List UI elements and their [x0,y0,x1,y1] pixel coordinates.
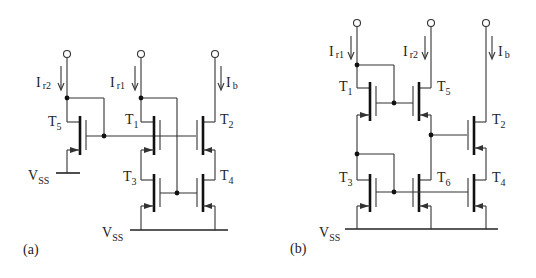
label-t1: T1 [125,112,139,130]
terminal-ir2 [64,51,71,58]
label-t3: T3 [123,169,137,187]
transistor-t4 [197,174,215,230]
label-ib: Ib [226,75,238,91]
transistor-t3 [141,174,160,230]
label-ir2: Ir2 [403,44,418,60]
label-t1: T1 [339,79,353,97]
label-ir2: Ir2 [36,75,51,91]
terminal-ir2 [428,20,435,27]
label-t4: T4 [492,170,506,188]
transistor-t1 [357,82,376,180]
label-vss: VSS [319,225,340,243]
label-vss-left: VSS [28,168,49,186]
label-t5: T5 [48,114,62,132]
transistor-t5 [413,82,431,180]
label-ib: Ib [498,44,510,60]
figure-b: Ir1 Ir2 Ib T1 T5 T2 T3 T6 T4 VSS (b) [290,20,510,258]
label-t2: T2 [220,112,234,130]
label-t3: T3 [339,170,353,188]
terminal-ib [483,20,490,27]
transistor-t6 [413,174,431,229]
label-t4: T4 [220,168,234,186]
label-t6: T6 [437,170,451,188]
figure-label-b: (b) [290,241,307,257]
terminal-ir1 [138,51,145,58]
terminal-ir1 [354,20,361,27]
transistor-t2 [197,116,215,180]
label-ir1: Ir1 [329,44,344,60]
current-arrow-icon [348,36,495,59]
transistor-t4 [468,174,486,229]
transistor-t2 [468,116,486,180]
figure-label-a: (a) [23,242,39,258]
label-vss-bottom: VSS [102,225,123,243]
label-t2: T2 [492,112,506,130]
transistor-t3 [357,174,376,229]
label-ir1: Ir1 [110,75,125,91]
circuit-diagram: Ir2 Ir1 Ib T5 T1 T2 T3 T4 VSS VSS (a) [0,0,536,278]
terminal-ib [212,51,219,58]
label-t5: T5 [437,79,451,97]
transistor-t1 [141,116,160,180]
figure-a: Ir2 Ir1 Ib T5 T1 T2 T3 T4 VSS VSS (a) [23,51,238,259]
